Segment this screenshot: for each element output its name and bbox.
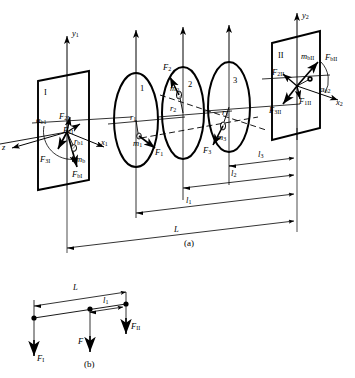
force-label-F: F	[78, 337, 83, 346]
dimension-l3	[229, 158, 294, 168]
label-r1: r1	[130, 113, 136, 122]
dimension-L-a	[67, 221, 294, 250]
label-m1: m1	[133, 139, 142, 148]
label-F-bII: FbII	[325, 53, 337, 62]
axis-label-x2: x2	[336, 98, 343, 107]
label-m3: m3	[217, 133, 226, 142]
label-m-bII: mbII	[301, 52, 314, 61]
label-alpha-b2: αb2	[320, 85, 330, 94]
caption-a: (a)	[184, 239, 194, 248]
force-label-F-II: FII	[131, 322, 140, 331]
label-F1: F1	[155, 148, 163, 157]
axis-label-y2: y2	[302, 11, 309, 20]
label-F-1I: F1I	[63, 126, 73, 135]
plane-I-center-line	[32, 117, 131, 123]
figure-canvas: y1 I z x1 αb1 F2I F1I rb1 F3I mb FbI 1 r…	[0, 0, 355, 378]
label-alpha-b1: αb1	[36, 116, 46, 125]
disc-1-shape	[108, 30, 185, 218]
label-m2: m2	[170, 84, 179, 93]
label-r2: r2	[170, 104, 176, 113]
caption-b: (b)	[84, 360, 95, 369]
dimension-label-l3: l3	[258, 150, 263, 159]
force-label-F-I: FI	[37, 354, 44, 363]
label-F2: F2	[163, 63, 171, 72]
label-F3: F3	[203, 146, 211, 155]
dimension-label-l1: l1	[186, 196, 191, 205]
axis-label-x1: x1	[101, 138, 108, 147]
label-r3: r3	[222, 108, 228, 117]
disc-3-number: 3	[233, 76, 237, 85]
disc-2-number: 2	[188, 80, 192, 89]
label-F-bI: FbI	[72, 170, 82, 179]
label-F-1II: F1II	[299, 97, 311, 106]
axis-label-z: z	[2, 143, 5, 152]
unbalance-mass-II	[307, 76, 312, 81]
dimension-l2	[183, 175, 294, 190]
disc-3-shape	[205, 25, 300, 185]
plane-I-name: I	[44, 88, 47, 97]
label-F-3I: F3I	[40, 155, 50, 164]
label-F-2I: F2I	[59, 112, 69, 121]
dimension-label-L-b: L	[73, 283, 78, 292]
label-r-b1: rb1	[74, 137, 83, 146]
dimension-label-l2: l2	[231, 169, 236, 178]
axis-label-y1: y1	[72, 29, 79, 38]
label-m-b: mb	[76, 155, 85, 164]
disc-2-shape	[158, 27, 232, 200]
panel-b-beam	[31, 292, 128, 356]
dimension-l1	[136, 194, 294, 215]
label-F-2II: F2II	[272, 68, 284, 77]
disc-1-number: 1	[140, 84, 144, 93]
dimension-label-l1-b: l1	[103, 296, 108, 305]
plane-II-name: II	[278, 51, 284, 60]
label-F-3II: F3II	[269, 106, 281, 115]
dimension-label-L-a: L	[174, 225, 179, 234]
